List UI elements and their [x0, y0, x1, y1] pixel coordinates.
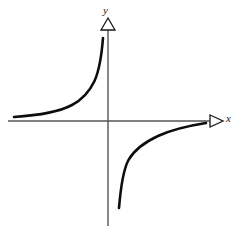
graph-canvas: [0, 0, 243, 236]
y-axis-label: y: [103, 5, 108, 16]
x-axis-arrowhead-icon: [210, 115, 223, 127]
curve-branch-quadrant-2: [14, 38, 103, 117]
curve-branch-quadrant-4: [119, 123, 206, 208]
x-axis-label: x: [226, 113, 231, 124]
y-axis-arrowhead-icon: [101, 18, 115, 30]
hyperbola-figure: y x: [0, 0, 243, 236]
